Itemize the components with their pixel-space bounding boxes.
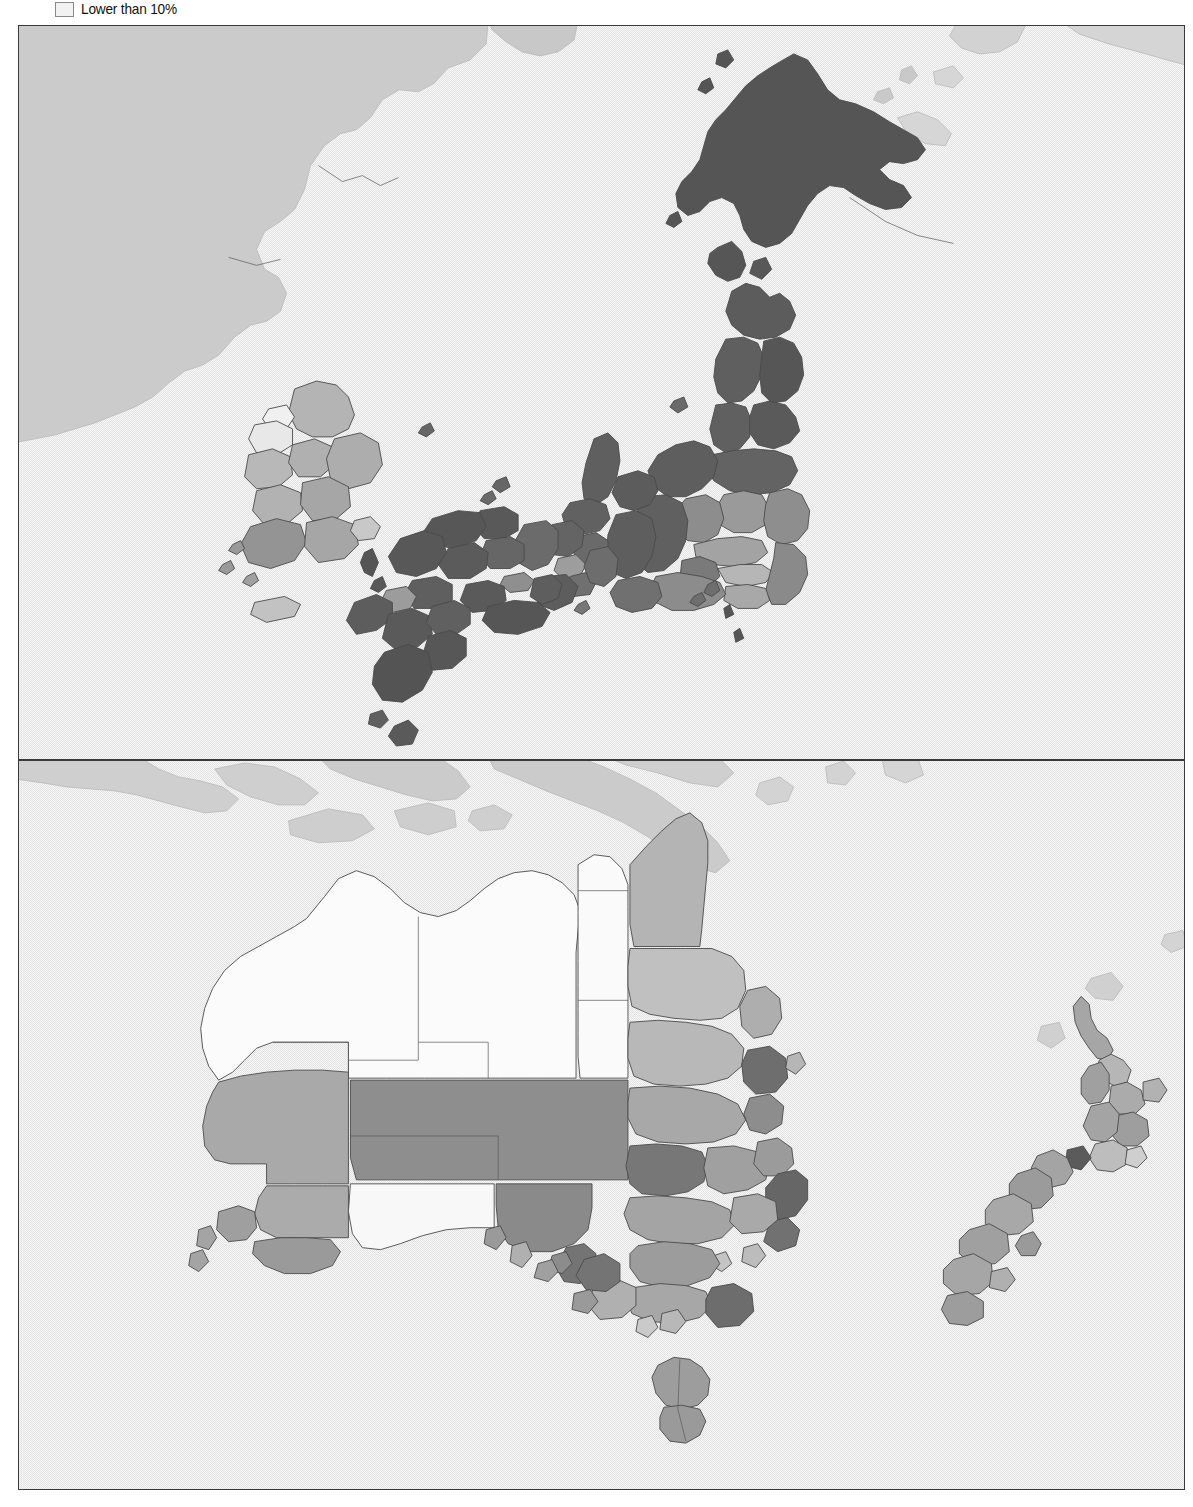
legend-item-lower-than-10[interactable]: Lower than 10% — [55, 2, 183, 17]
kuril-islands — [874, 66, 918, 104]
region-tohoku — [706, 283, 804, 494]
legend-item-label: Lower than 10% — [81, 2, 177, 17]
region-hokkaido — [666, 50, 926, 281]
japan-korea-map-panel[interactable] — [18, 25, 1185, 760]
australia-new-zealand-map-svg — [19, 761, 1184, 1489]
region-chugoku — [388, 507, 524, 579]
region-kansai — [514, 521, 618, 611]
australia-new-zealand-map-panel[interactable] — [18, 760, 1185, 1490]
out-of-scope-landmass — [19, 26, 1184, 443]
legend-swatch-icon — [55, 2, 74, 17]
legend: Lower than 10% — [0, 0, 1193, 24]
region-kyushu — [346, 576, 470, 746]
region-south-korea — [219, 381, 383, 622]
japan-korea-map-svg — [19, 26, 1184, 759]
australia-landmass — [189, 813, 808, 1443]
